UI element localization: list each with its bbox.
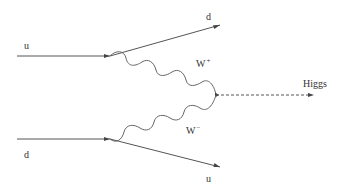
- arrow-icon: [214, 163, 221, 167]
- label-w-plus: W+: [196, 57, 210, 69]
- arrow-icon: [213, 25, 220, 29]
- feynman-diagram: u d W+ Higgs W− d u: [0, 0, 343, 188]
- higgs-line: [215, 93, 314, 98]
- incoming-quark-top: [17, 54, 110, 58]
- w-minus-boson: [110, 95, 216, 141]
- label-incoming-bottom: d: [24, 149, 29, 160]
- outgoing-quark-bottom: [110, 139, 220, 167]
- arrow-icon: [104, 137, 110, 141]
- label-outgoing-top: d: [206, 11, 211, 22]
- label-outgoing-bottom: u: [206, 173, 211, 184]
- label-incoming-top: u: [24, 40, 29, 51]
- label-w-minus: W−: [186, 124, 200, 136]
- label-higgs: Higgs: [303, 78, 327, 89]
- arrow-icon: [104, 54, 110, 58]
- outgoing-quark-top: [110, 25, 220, 56]
- arrow-icon: [308, 93, 314, 97]
- incoming-quark-bottom: [17, 137, 110, 141]
